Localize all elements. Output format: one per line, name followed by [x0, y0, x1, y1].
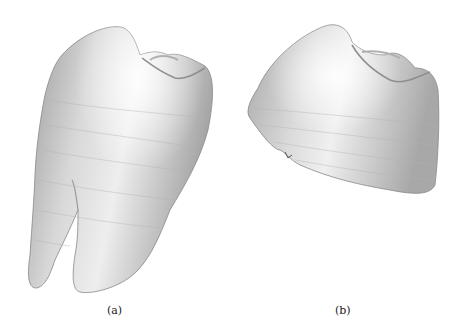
full-tooth-image [0, 0, 230, 300]
caption-b: (b) [335, 304, 351, 317]
panel-b-crown [230, 0, 457, 300]
tooth-crown-image [230, 0, 457, 300]
caption-a: (a) [107, 304, 122, 317]
panel-a-full-tooth [0, 0, 230, 300]
